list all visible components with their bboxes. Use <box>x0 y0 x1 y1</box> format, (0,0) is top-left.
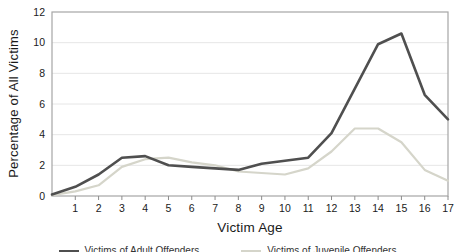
x-tick-label: 6 <box>189 202 195 214</box>
x-tick-label: 13 <box>349 202 361 214</box>
legend-item-juvenile-offenders: Victims of Juvenile Offenders <box>241 245 396 252</box>
y-tick-label: 2 <box>39 159 45 171</box>
legend-label-adult-offenders: Victims of Adult Offenders <box>85 245 200 252</box>
x-tick-label: 11 <box>303 202 314 214</box>
x-tick-label: 12 <box>326 202 338 214</box>
legend: Victims of Adult Offenders Victims of Ju… <box>0 245 455 252</box>
y-tick-label: 6 <box>39 98 45 110</box>
legend-item-adult-offenders: Victims of Adult Offenders <box>59 245 200 252</box>
juvenile-offenders-line-swatch <box>241 250 261 252</box>
chart-figure: 0246810121234567891011121314151617 Perce… <box>0 0 455 252</box>
x-tick-label: 16 <box>419 202 431 214</box>
y-tick-label: 12 <box>33 6 45 18</box>
x-axis-title: Victim Age <box>52 220 448 235</box>
x-tick-label: 15 <box>396 202 408 214</box>
x-tick-label: 2 <box>96 202 102 214</box>
y-axis-title: Percentage of All Victims <box>6 14 21 194</box>
y-tick-label: 8 <box>39 67 45 79</box>
x-tick-label: 10 <box>279 202 291 214</box>
x-tick-label: 4 <box>142 202 148 214</box>
x-tick-label: 1 <box>72 202 78 214</box>
adult-offenders-line-swatch <box>59 250 79 252</box>
x-tick-label: 14 <box>372 202 384 214</box>
x-tick-label: 9 <box>259 202 265 214</box>
x-tick-label: 7 <box>212 202 218 214</box>
y-tick-label: 0 <box>39 190 45 202</box>
x-tick-label: 8 <box>235 202 241 214</box>
adult-offenders-line <box>52 34 448 195</box>
juvenile-offenders-line <box>52 129 448 196</box>
plot-area: 0246810121234567891011121314151617 <box>0 0 455 252</box>
x-tick-label: 3 <box>119 202 125 214</box>
legend-label-juvenile-offenders: Victims of Juvenile Offenders <box>267 245 396 252</box>
x-tick-label: 5 <box>166 202 172 214</box>
y-tick-label: 4 <box>39 128 45 140</box>
y-tick-label: 10 <box>33 36 45 48</box>
x-tick-label: 17 <box>442 202 454 214</box>
